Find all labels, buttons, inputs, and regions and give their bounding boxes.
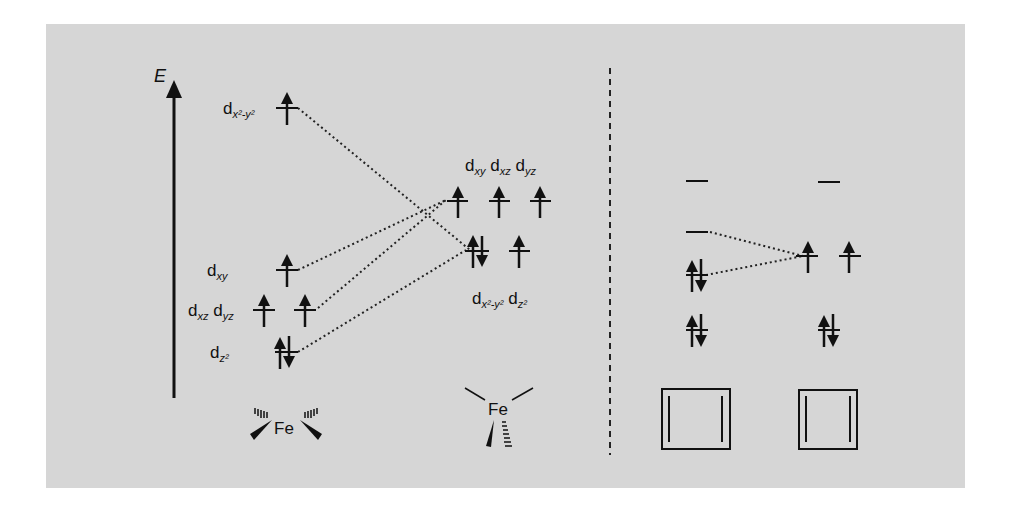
- correlation-lines: [298, 108, 803, 352]
- level-dxy-left: [276, 254, 298, 287]
- right-left-column-levels: [686, 181, 708, 347]
- level-dxy-mid: [447, 186, 468, 218]
- level-dxz-mid: [489, 186, 510, 218]
- label-sub: yz: [525, 165, 536, 177]
- label-sub: x²-y²: [481, 298, 503, 310]
- label-main: d: [213, 301, 222, 320]
- level-dyz-left: [294, 294, 316, 327]
- label-dx2y2-left: dx²-y²: [223, 100, 254, 120]
- energy-axis: [166, 80, 182, 398]
- level-dx2y2-left: [276, 92, 298, 125]
- label-lower-mid: dx²-y² dz²: [472, 290, 527, 310]
- label-main: d: [490, 156, 499, 175]
- label-dxy-left: dxy: [207, 262, 227, 282]
- label-sub: z²: [518, 298, 527, 310]
- label-sub: z²: [219, 352, 228, 364]
- fe-label-tetrahedral: Fe: [274, 419, 294, 439]
- label-upper-mid: dxy dxz dyz: [465, 157, 536, 177]
- level-dz2-mid: [509, 235, 530, 268]
- square-with-bars-icon: [799, 390, 857, 449]
- energy-axis-label: E: [154, 66, 166, 87]
- label-sub: xy: [216, 270, 227, 282]
- label-sub: yz: [223, 310, 234, 322]
- label-sub: xz: [197, 310, 208, 322]
- label-sub: xy: [474, 165, 485, 177]
- label-main: d: [515, 156, 524, 175]
- orbital-diagram: [0, 0, 1010, 512]
- fe-label-trigonal: Fe: [488, 400, 508, 420]
- level-dz2-left: [274, 336, 298, 369]
- level-dyz-mid: [530, 186, 551, 218]
- level-dxz-left: [253, 294, 275, 327]
- label-sub: xz: [500, 165, 511, 177]
- square-with-bars-icon: [662, 389, 730, 449]
- label-sub: x²-y²: [232, 108, 254, 120]
- label-dxz-dyz-left: dxz dyz: [188, 302, 234, 322]
- label-main: d: [508, 289, 517, 308]
- level-dx2y2-mid: [465, 235, 489, 268]
- label-dz2-left: dz²: [210, 344, 229, 364]
- right-right-column-levels: [796, 182, 861, 347]
